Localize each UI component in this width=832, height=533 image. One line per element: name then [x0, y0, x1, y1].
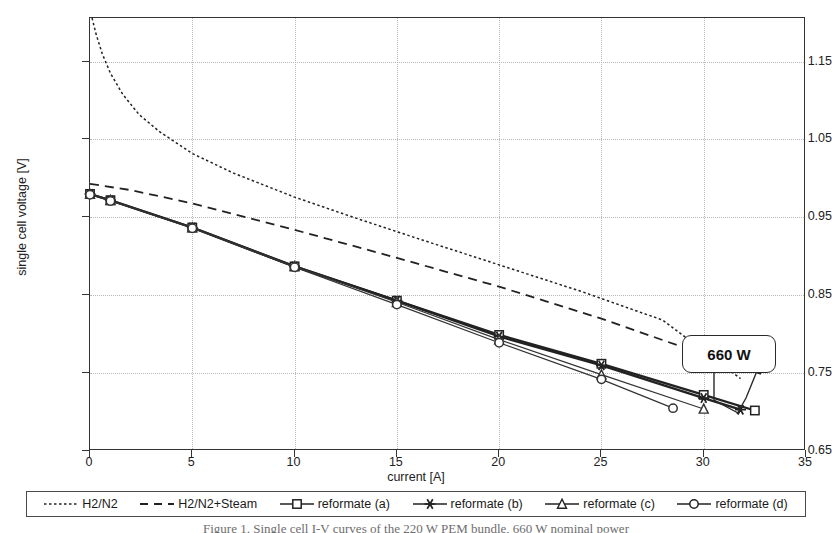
marker-circle — [690, 500, 698, 508]
chart-legend: H2/N2H2/N2+Steamreformate (a)reformate (… — [26, 491, 806, 517]
legend-label: H2/N2+Steam — [178, 497, 257, 511]
series-reformate-a- — [86, 190, 759, 415]
series-reformate-d- — [86, 191, 677, 413]
x-axis-title: current [A] — [0, 470, 832, 484]
marker-square — [751, 406, 759, 414]
marker-circle — [290, 263, 298, 271]
power-callout-label: 660 W — [707, 346, 750, 363]
legend-label: reformate (b) — [451, 497, 523, 511]
x-tick-label: 30 — [683, 455, 723, 469]
marker-circle — [597, 375, 605, 383]
x-tick-mark — [191, 450, 192, 457]
x-tick-label: 15 — [376, 455, 416, 469]
legend-item-reformate-d-[interactable]: reformate (d) — [677, 497, 787, 511]
x-tick-label: 0 — [69, 455, 109, 469]
legend-swatch-circle — [677, 498, 711, 510]
series-reformate-b- — [85, 189, 747, 414]
legend-item-h2-n2[interactable]: H2/N2 — [44, 497, 117, 511]
legend-item-reformate-c-[interactable]: reformate (c) — [545, 497, 655, 511]
legend-label: reformate (a) — [318, 497, 390, 511]
x-tick-mark — [805, 450, 806, 457]
series-h2-n2-steam — [90, 184, 761, 374]
x-tick-mark — [600, 450, 601, 457]
marker-star — [424, 499, 435, 509]
power-callout: 660 W — [682, 335, 776, 373]
series-line — [92, 18, 740, 379]
legend-swatch-none — [44, 498, 78, 510]
legend-swatch-square — [280, 498, 314, 510]
marker-circle — [393, 300, 401, 308]
legend-item-h2-n2-steam[interactable]: H2/N2+Steam — [140, 497, 257, 511]
series-line — [90, 195, 673, 408]
marker-circle — [495, 339, 503, 347]
x-tick-mark — [396, 450, 397, 457]
series-plot — [90, 18, 806, 451]
marker-square — [293, 500, 301, 508]
x-tick-label: 20 — [478, 455, 518, 469]
legend-label: reformate (c) — [583, 497, 655, 511]
legend-swatch-star — [413, 498, 447, 510]
figure-caption: Figure 1. Single cell I-V curves of the … — [0, 521, 832, 533]
legend-swatch-none — [140, 498, 174, 510]
marker-triangle — [699, 404, 708, 413]
marker-circle — [86, 191, 94, 199]
series-h2-n2 — [92, 18, 740, 379]
marker-circle — [669, 404, 677, 412]
legend-swatch-triangle — [545, 498, 579, 510]
x-tick-label: 35 — [785, 455, 825, 469]
x-tick-mark — [703, 450, 704, 457]
marker-circle — [188, 224, 196, 232]
marker-circle — [106, 197, 114, 205]
series-line — [90, 184, 761, 374]
legend-item-reformate-b-[interactable]: reformate (b) — [413, 497, 523, 511]
figure-root: 0.650.750.850.951.051.15 05101520253035 … — [0, 0, 832, 533]
x-tick-label: 5 — [171, 455, 211, 469]
plot-area — [89, 17, 805, 450]
x-tick-label: 10 — [274, 455, 314, 469]
chart-container: 0.650.750.850.951.051.15 05101520253035 … — [0, 0, 832, 487]
x-tick-mark — [498, 450, 499, 457]
y-axis-title: single cell voltage [V] — [15, 117, 29, 317]
x-tick-mark — [89, 450, 90, 457]
legend-label: reformate (d) — [715, 497, 787, 511]
legend-label: H2/N2 — [82, 497, 117, 511]
legend-item-reformate-a-[interactable]: reformate (a) — [280, 497, 390, 511]
x-tick-label: 25 — [580, 455, 620, 469]
x-tick-mark — [294, 450, 295, 457]
